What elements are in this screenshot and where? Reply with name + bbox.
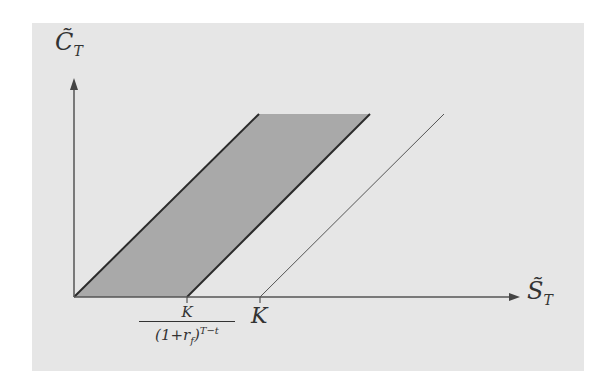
y-axis-label: C̃T xyxy=(55,28,83,59)
strike-label: K xyxy=(251,303,267,328)
pv-strike-label: K (1+rf)T−t xyxy=(137,304,237,349)
x-axis-label: S̃T xyxy=(527,277,553,308)
fraction-bar xyxy=(139,321,235,322)
shaded-region xyxy=(74,114,370,297)
pv-strike-denominator: (1+rf)T−t xyxy=(137,323,237,349)
pv-strike-numerator: K xyxy=(137,304,237,320)
diagram-canvas xyxy=(0,0,613,385)
y-axis-arrow-icon xyxy=(70,78,78,90)
x-axis-arrow-icon xyxy=(509,293,520,301)
